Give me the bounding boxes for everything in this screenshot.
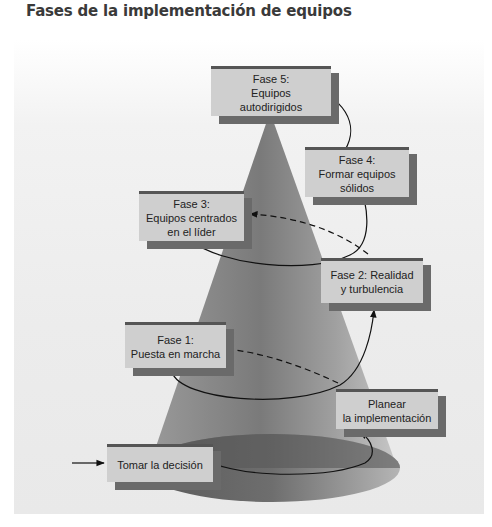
phase-1-line-2: Puesta en marcha [131,347,220,361]
start-box: Tomar la decisión [107,444,213,482]
phase-4-line-1: Fase 4: [339,153,376,167]
plan-line-2: la implementación [343,411,432,425]
phase-2-box: Fase 2: Realidad y turbulencia [321,258,423,303]
phase-4-box: Fase 4: Formar equipos sólidos [305,147,409,197]
start-line-1: Tomar la decisión [117,458,203,472]
phase-5-box: Fase 5: Equipos autodirigidos [211,66,331,116]
phase-5-line-3: autodirigidos [240,100,302,114]
phase-4-line-2: Formar equipos [318,167,395,181]
phase-5-line-2: Equipos [251,86,291,100]
phase-3-line-3: en el líder [167,225,215,239]
phase-3-box: Fase 3: Equipos centrados en el líder [139,191,244,241]
phase-2-line-1: Fase 2: Realidad [330,268,413,282]
phase-2-line-2: y turbulencia [341,282,403,296]
phase-3-line-1: Fase 3: [173,197,210,211]
phase-4-line-3: sólidos [340,181,374,195]
phase-1-line-1: Fase 1: [157,333,194,347]
phase-5-line-1: Fase 5: [253,72,290,86]
plan-box: Planear la implementación [336,389,438,429]
plan-line-1: Planear [368,397,406,411]
phase-3-line-2: Equipos centrados [146,211,237,225]
phase-1-box: Fase 1: Puesta en marcha [125,322,226,368]
